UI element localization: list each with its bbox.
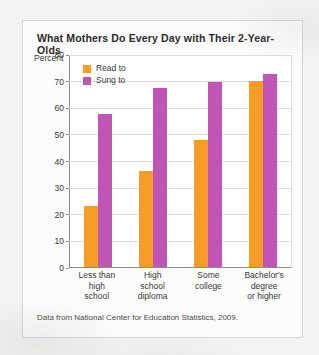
x-axis-label-line: Some <box>182 270 236 281</box>
y-axis-tick-label: 30 <box>55 183 64 193</box>
y-axis-tick-mark <box>66 268 69 269</box>
bar-group <box>181 56 236 267</box>
x-axis-label-line: or higher <box>237 291 291 302</box>
x-axis-label-line: degree <box>237 281 291 292</box>
bar-group <box>236 56 291 267</box>
source-note: Data from National Center for Education … <box>37 313 238 322</box>
x-axis-label-line: school <box>126 281 180 292</box>
y-axis-tick-label: 40 <box>55 157 64 167</box>
chart-card: What Mothers Do Every Day with Their 2-Y… <box>22 20 303 338</box>
y-axis-tick-mark <box>66 134 69 135</box>
x-axis-label-line: high <box>70 281 124 292</box>
y-axis-tick-mark <box>66 161 69 162</box>
x-axis-label-line: school <box>70 291 124 302</box>
x-axis-label: Less thanhighschool <box>69 270 125 302</box>
legend-label-read-to: Read to <box>96 64 126 73</box>
x-axis-label-line: Less than <box>70 270 124 281</box>
bar-read-to[interactable] <box>194 140 208 267</box>
y-axis-tick-label: 10 <box>55 236 64 246</box>
y-axis-tick-label: 20 <box>55 210 64 220</box>
bar-sung-to[interactable] <box>153 88 167 267</box>
y-axis-tick-label: 50 <box>55 130 64 140</box>
y-axis-tick-mark <box>66 81 69 82</box>
y-axis-tick-mark <box>66 55 69 56</box>
legend-swatch-read-to-icon <box>83 65 91 73</box>
x-axis-label: Highschooldiploma <box>125 270 181 302</box>
legend-item-read-to[interactable]: Read to <box>83 64 126 73</box>
x-axis-labels: Less thanhighschoolHighschooldiplomaSome… <box>69 270 292 302</box>
y-axis-tick-mark <box>66 188 69 189</box>
y-axis-tick-label: 70 <box>55 77 64 87</box>
legend-item-sung-to[interactable]: Sung to <box>83 76 126 85</box>
x-axis-label-line: college <box>182 281 236 292</box>
chart-title: What Mothers Do Every Day with Their 2-Y… <box>37 32 295 56</box>
y-axis-tick-label: 0 <box>59 263 64 273</box>
legend-label-sung-to: Sung to <box>96 76 125 85</box>
chart-legend: Read to Sung to <box>83 64 126 88</box>
x-axis-label: Bachelor'sdegreeor higher <box>236 270 292 302</box>
bar-group <box>125 56 180 267</box>
x-axis-label-line: Bachelor's <box>237 270 291 281</box>
y-axis-tick-label: 60 <box>55 103 64 113</box>
x-axis-label-line: diploma <box>126 291 180 302</box>
bar-read-to[interactable] <box>249 81 263 267</box>
y-axis-tick-mark <box>66 214 69 215</box>
bar-read-to[interactable] <box>139 171 153 267</box>
x-axis-label-line: High <box>126 270 180 281</box>
y-axis-tick-mark <box>66 108 69 109</box>
bar-sung-to[interactable] <box>98 114 112 267</box>
bar-sung-to[interactable] <box>208 82 222 267</box>
plot-area: 01020304050607080 Read to Sung to <box>69 55 292 268</box>
y-axis-tick-label: 80 <box>55 50 64 60</box>
x-axis-label: Somecollege <box>181 270 237 302</box>
legend-swatch-sung-to-icon <box>83 77 91 85</box>
y-axis-tick-mark <box>66 241 69 242</box>
bar-read-to[interactable] <box>84 206 98 267</box>
bar-sung-to[interactable] <box>263 74 277 267</box>
